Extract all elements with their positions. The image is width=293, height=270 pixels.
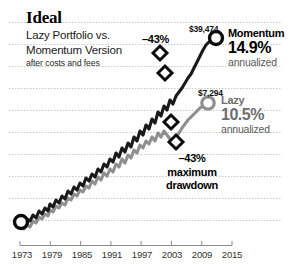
end-point-marker-momentum <box>210 32 223 45</box>
end-point-marker-lazy <box>202 97 214 109</box>
chart-figure: Ideal Lazy Portfolio vs. Momentum Versio… <box>0 0 293 270</box>
start-point-marker <box>15 216 28 229</box>
chart-canvas <box>0 0 293 270</box>
drawdown-marker-lazy-2 <box>169 135 183 149</box>
drawdown-marker-momentum-2 <box>158 66 172 80</box>
x-axis <box>20 241 232 246</box>
gridlines <box>8 22 282 221</box>
drawdown-marker-lazy-1 <box>164 115 178 129</box>
drawdown-marker-momentum-1 <box>153 46 167 60</box>
